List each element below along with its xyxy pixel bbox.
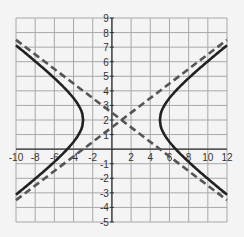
y-tick-label: -5 <box>100 217 109 228</box>
x-tick-label: -2 <box>88 152 97 163</box>
hyperbola-chart: -10-8-6-4-224681012987654321-1-2-3-4-5 <box>0 0 244 237</box>
y-tick-label: -1 <box>100 159 109 170</box>
x-tick-label: 2 <box>128 152 134 163</box>
y-tick-label: 9 <box>103 13 109 24</box>
x-tick-label: 4 <box>147 152 153 163</box>
y-tick-label: 7 <box>103 42 109 53</box>
y-tick-label: 5 <box>103 71 109 82</box>
y-tick-label: -3 <box>100 188 109 199</box>
y-tick-label: 8 <box>103 28 109 39</box>
y-tick-label: 6 <box>103 57 109 68</box>
y-tick-label: 4 <box>103 86 109 97</box>
x-tick-label: -10 <box>9 152 24 163</box>
y-tick-label: -2 <box>100 173 109 184</box>
x-tick-label: -8 <box>31 152 40 163</box>
y-tick-label: -4 <box>100 202 109 213</box>
x-tick-label: 10 <box>202 152 214 163</box>
x-tick-label: 12 <box>221 152 233 163</box>
y-tick-label: 2 <box>103 115 109 126</box>
